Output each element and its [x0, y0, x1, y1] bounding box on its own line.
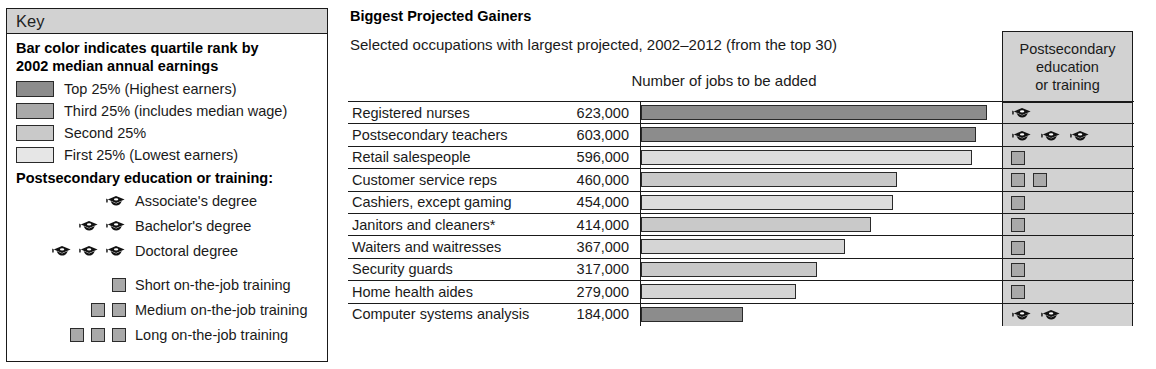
training-square-icon — [112, 303, 126, 317]
graduation-cap-icon — [1069, 129, 1090, 143]
education-legend-item: Bachelor's degree — [16, 213, 318, 238]
occupation-name: Security guards — [352, 261, 453, 277]
graduation-cap-icon — [78, 219, 99, 233]
occupation-name: Customer service reps — [352, 172, 497, 188]
legend-spacer — [16, 263, 318, 272]
graduation-cap-icon — [1040, 308, 1061, 322]
key-header-label: Key — [16, 12, 44, 31]
education-column-header-line3: or training — [1035, 76, 1099, 94]
bar-cell — [640, 236, 1002, 258]
bar — [641, 172, 897, 187]
key-panel-header: Key — [7, 9, 327, 34]
training-square-icon — [1011, 173, 1025, 187]
education-cell — [1002, 192, 1133, 214]
occupation-name: Janitors and cleaners* — [352, 217, 495, 233]
training-square-icon — [1033, 173, 1047, 187]
table-row: Janitors and cleaners*414,000 — [348, 213, 1134, 235]
jobs-added-value: 603,000 — [541, 127, 629, 143]
graduation-cap-icon — [1011, 129, 1032, 143]
jobs-added-value: 367,000 — [541, 239, 629, 255]
table-row: Registered nurses623,000 — [348, 101, 1134, 123]
bar — [641, 307, 743, 322]
graduation-cap-icon — [51, 244, 72, 258]
quartile-color-swatch — [16, 103, 54, 119]
graduation-cap-icon — [1011, 308, 1032, 322]
bar-cell — [640, 192, 1002, 214]
jobs-added-value: 596,000 — [541, 149, 629, 165]
table-row: Security guards317,000 — [348, 258, 1134, 280]
key-quartile-title: Bar color indicates quartile rank by 200… — [16, 40, 318, 75]
training-legend-label: Medium on-the-job training — [135, 302, 307, 318]
table-row: Customer service reps460,000 — [348, 168, 1134, 190]
jobs-added-value: 460,000 — [541, 172, 629, 188]
bar — [641, 195, 893, 210]
quartile-legend-item: Third 25% (includes median wage) — [16, 100, 318, 122]
chart-data-table: Registered nurses623,000Postsecondary te… — [348, 101, 1134, 325]
key-quartile-title-line1: Bar color indicates quartile rank by — [16, 40, 318, 58]
education-column-bottom-border — [1002, 101, 1133, 103]
training-icon-group — [34, 303, 126, 317]
education-icon-group — [34, 194, 126, 208]
bar — [641, 127, 976, 142]
table-row: Retail salespeople596,000 — [348, 146, 1134, 168]
education-column-header-line1: Postsecondary — [1020, 40, 1116, 58]
training-legend-item: Long on-the-job training — [16, 322, 318, 347]
bar-cell — [640, 304, 1002, 326]
education-cell — [1002, 304, 1133, 326]
education-cell — [1002, 147, 1133, 169]
chart-panel: Biggest Projected Gainers Selected occup… — [348, 0, 1156, 369]
training-square-icon — [1011, 196, 1025, 210]
table-row: Computer systems analysis184,000 — [348, 303, 1134, 325]
education-legend-item: Associate's degree — [16, 188, 318, 213]
training-square-icon — [1011, 285, 1025, 299]
education-cell — [1002, 214, 1133, 236]
quartile-legend-item: Second 25% — [16, 122, 318, 144]
education-legend-list: Associate's degreeBachelor's degreeDocto… — [16, 188, 318, 263]
training-square-icon — [91, 328, 105, 342]
table-row: Waiters and waitresses367,000 — [348, 235, 1134, 257]
training-legend-list: Short on-the-job trainingMedium on-the-j… — [16, 272, 318, 347]
training-square-icon — [1011, 151, 1025, 165]
bar-cell — [640, 124, 1002, 146]
occupation-name: Retail salespeople — [352, 149, 471, 165]
graduation-cap-icon — [105, 244, 126, 258]
key-education-subtitle: Postsecondary education or training: — [16, 170, 318, 186]
occupation-name: Cashiers, except gaming — [352, 194, 512, 210]
key-panel: Key Bar color indicates quartile rank by… — [6, 8, 328, 362]
education-cell — [1002, 281, 1133, 303]
bar — [641, 284, 796, 299]
education-cell — [1002, 124, 1133, 146]
training-square-icon — [112, 328, 126, 342]
jobs-added-value: 454,000 — [541, 194, 629, 210]
education-cell — [1002, 169, 1133, 191]
education-cell — [1002, 102, 1133, 124]
education-legend-label: Associate's degree — [135, 193, 257, 209]
occupation-name: Postsecondary teachers — [352, 127, 508, 143]
key-quartile-title-line2: 2002 median annual earnings — [16, 58, 318, 76]
bar-cell — [640, 169, 1002, 191]
bar-cell — [640, 102, 1002, 124]
training-icon-group — [34, 328, 126, 342]
bar-cell — [640, 281, 1002, 303]
training-square-icon — [70, 328, 84, 342]
education-legend-label: Doctoral degree — [135, 243, 238, 259]
education-column-header-line2: education — [1036, 58, 1099, 76]
training-legend-label: Short on-the-job training — [135, 277, 291, 293]
quartile-legend-label: Second 25% — [64, 125, 146, 141]
education-cell — [1002, 259, 1133, 281]
quartile-color-swatch — [16, 81, 54, 97]
education-icon-group — [34, 219, 126, 233]
occupation-name: Registered nurses — [352, 105, 470, 121]
education-legend-label: Bachelor's degree — [135, 218, 251, 234]
graduation-cap-icon — [105, 194, 126, 208]
quartile-legend-list: Top 25% (Highest earners)Third 25% (incl… — [16, 78, 318, 166]
chart-title: Biggest Projected Gainers — [350, 8, 531, 24]
jobs-added-value: 317,000 — [541, 261, 629, 277]
training-square-icon — [1011, 241, 1025, 255]
jobs-added-value: 184,000 — [541, 306, 629, 322]
training-legend-item: Short on-the-job training — [16, 272, 318, 297]
quartile-color-swatch — [16, 125, 54, 141]
bar — [641, 150, 972, 165]
table-row: Postsecondary teachers603,000 — [348, 123, 1134, 145]
table-row: Home health aides279,000 — [348, 280, 1134, 302]
